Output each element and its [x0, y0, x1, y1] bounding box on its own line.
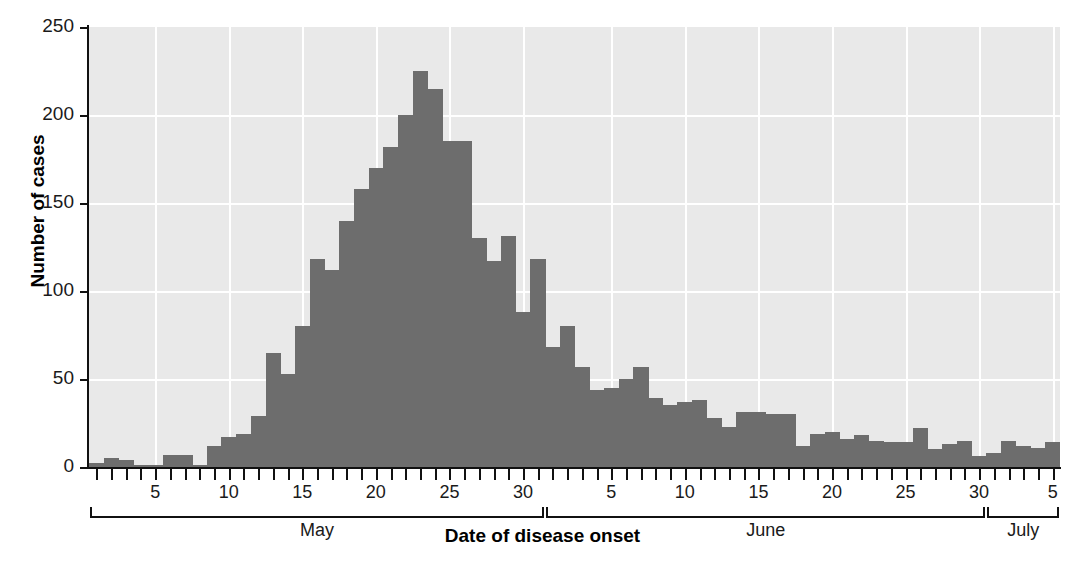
x-axis-title: Date of disease onset [0, 525, 1085, 547]
x-tick-mark [994, 469, 996, 480]
x-tick-mark [199, 469, 201, 480]
bar [604, 388, 619, 467]
bar [839, 439, 854, 467]
bar [383, 147, 398, 467]
x-tick-mark [523, 469, 525, 480]
bar [869, 441, 884, 467]
x-tick-mark [479, 469, 481, 480]
bar [780, 414, 795, 467]
x-tick-mark [729, 469, 731, 480]
bar [472, 238, 487, 467]
x-tick-mark [96, 469, 98, 480]
x-tick-mark [508, 469, 510, 480]
x-tick-label-may-10: 10 [209, 482, 249, 503]
bar [972, 456, 987, 467]
bar [104, 458, 119, 467]
x-tick-mark [611, 469, 613, 480]
bar [810, 434, 825, 467]
plot-area [89, 27, 1060, 467]
bar [280, 374, 295, 467]
x-tick-mark [317, 469, 319, 480]
x-tick-mark [229, 469, 231, 480]
x-tick-mark [111, 469, 113, 480]
bar [207, 446, 222, 467]
x-tick-mark [361, 469, 363, 480]
x-tick-mark [405, 469, 407, 480]
x-tick-mark [155, 469, 157, 480]
x-tick-mark [700, 469, 702, 480]
x-tick-mark [773, 469, 775, 480]
y-tick-label-150: 150 [22, 191, 74, 213]
month-bracket-july [987, 507, 1059, 518]
x-tick-mark [346, 469, 348, 480]
bar [427, 89, 442, 467]
gridline-y-200 [89, 115, 1060, 117]
bar [707, 418, 722, 467]
bar [310, 259, 325, 467]
bar [398, 115, 413, 467]
gridline-x-june-30 [979, 27, 981, 467]
x-tick-mark [214, 469, 216, 480]
x-tick-mark [420, 469, 422, 480]
x-axis-line [87, 467, 1061, 469]
bar [545, 347, 560, 467]
gridline-x-may-5 [155, 27, 157, 467]
bar [295, 326, 310, 467]
bar [251, 416, 266, 467]
x-tick-mark [464, 469, 466, 480]
bar [442, 141, 457, 467]
bar [118, 460, 133, 467]
x-tick-label-june-20: 20 [812, 482, 852, 503]
x-tick-label-june-15: 15 [738, 482, 778, 503]
x-tick-label-may-5: 5 [135, 482, 175, 503]
x-tick-mark [641, 469, 643, 480]
x-tick-mark [979, 469, 981, 480]
x-tick-mark [449, 469, 451, 480]
gridline-y-100 [89, 291, 1060, 293]
bar [1016, 446, 1031, 467]
x-tick-mark [891, 469, 893, 480]
bar [501, 236, 516, 467]
x-tick-mark [685, 469, 687, 480]
x-tick-mark [920, 469, 922, 480]
x-tick-mark [626, 469, 628, 480]
bar [795, 446, 810, 467]
x-tick-label-may-25: 25 [429, 482, 469, 503]
x-tick-mark [935, 469, 937, 480]
bar [177, 455, 192, 467]
x-tick-mark [391, 469, 393, 480]
x-tick-mark [597, 469, 599, 480]
x-tick-mark [185, 469, 187, 480]
bar [722, 427, 737, 467]
bar [221, 437, 236, 467]
bar [663, 405, 678, 467]
x-tick-mark [906, 469, 908, 480]
gridline-x-may-10 [229, 27, 231, 467]
gridline-x-june-15 [758, 27, 760, 467]
bar [692, 400, 707, 467]
x-tick-mark [1009, 469, 1011, 480]
bar [560, 326, 575, 467]
bar [589, 390, 604, 467]
bar [633, 367, 648, 467]
bar [986, 453, 1001, 467]
x-tick-mark [788, 469, 790, 480]
x-tick-mark [714, 469, 716, 480]
y-tick-label-100: 100 [22, 279, 74, 301]
x-tick-mark [538, 469, 540, 480]
bar [163, 455, 178, 467]
bar [369, 168, 384, 467]
bar [942, 444, 957, 467]
bar [354, 189, 369, 467]
bar [339, 221, 354, 467]
x-tick-label-june-10: 10 [665, 482, 705, 503]
y-tick-label-250: 250 [22, 15, 74, 37]
x-tick-mark [1038, 469, 1040, 480]
x-tick-label-june-30: 30 [959, 482, 999, 503]
bar [648, 398, 663, 467]
x-tick-mark [832, 469, 834, 480]
bar [457, 141, 472, 467]
bar [530, 259, 545, 467]
x-tick-mark [288, 469, 290, 480]
x-tick-mark [861, 469, 863, 480]
